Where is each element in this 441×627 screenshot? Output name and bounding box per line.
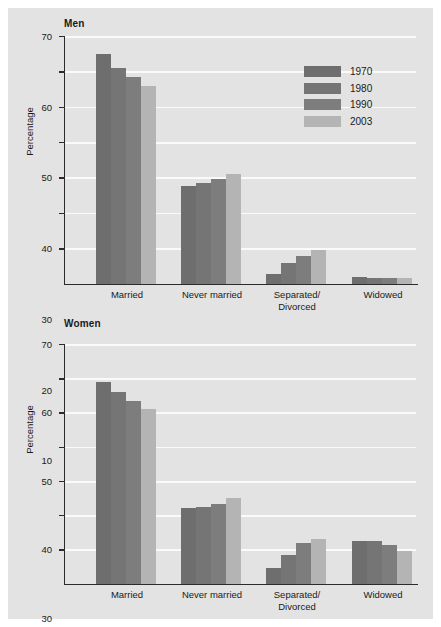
y-axis-tick-label: 70	[41, 339, 52, 350]
bar	[281, 263, 296, 284]
legend-swatch-icon	[304, 66, 341, 77]
y-axis-label-men: Percentage	[24, 87, 35, 177]
figure-panel: Men Percentage 10203040506070 1970198019…	[8, 8, 433, 619]
chart-women: Women Percentage 10203040506070 MarriedN…	[8, 316, 433, 616]
bar	[141, 86, 156, 284]
y-axis-tick: 10	[59, 549, 64, 550]
bar	[211, 504, 226, 584]
y-axis-tick-label: 60	[41, 407, 52, 418]
bar-group	[352, 343, 414, 584]
y-axis-tick-label: 70	[41, 31, 52, 42]
bar	[196, 183, 211, 284]
legend-item: 1970	[304, 64, 408, 79]
bar	[266, 568, 281, 583]
x-axis-category-label: Separated/ Divorced	[274, 289, 320, 312]
bar	[311, 539, 326, 583]
bar	[126, 401, 141, 584]
bar	[382, 278, 397, 283]
legend-label: 1980	[350, 83, 372, 94]
y-axis-tick: 40	[59, 142, 64, 143]
bar	[281, 555, 296, 584]
y-axis-tick: 50	[59, 107, 64, 108]
bar	[96, 382, 111, 584]
bar	[141, 409, 156, 584]
bar	[111, 392, 126, 584]
legend-swatch-icon	[304, 83, 341, 94]
bar	[311, 250, 326, 283]
bar	[226, 174, 241, 284]
legend-label: 1970	[350, 66, 372, 77]
legend-item: 1980	[304, 81, 408, 96]
y-axis-tick: 30	[59, 177, 64, 178]
legend-item: 2003	[304, 114, 408, 129]
y-axis-tick-label: 40	[41, 544, 52, 555]
legend-swatch-icon	[304, 116, 341, 127]
bar	[181, 186, 196, 284]
x-axis-line-women	[64, 584, 418, 585]
bar	[382, 545, 397, 584]
legend: 1970198019902003	[304, 64, 408, 130]
y-axis-tick: 20	[59, 213, 64, 214]
bar	[296, 543, 311, 584]
y-axis-tick-label: 40	[41, 243, 52, 254]
y-axis-label-women: Percentage	[24, 385, 35, 475]
y-axis-tick: 60	[59, 71, 64, 72]
bar	[367, 278, 382, 283]
y-axis-tick: 60	[59, 378, 64, 379]
chart-men: Men Percentage 10203040506070 1970198019…	[8, 16, 433, 316]
bar-group	[266, 343, 328, 584]
x-axis-line-men	[64, 284, 418, 285]
bar	[96, 54, 111, 284]
y-axis-tick: 50	[59, 412, 64, 413]
bar	[111, 68, 126, 284]
bar-group	[181, 343, 243, 584]
x-axis-category-label: Never married	[182, 289, 242, 301]
bar	[352, 277, 367, 284]
y-axis-tick-label: 50	[41, 172, 52, 183]
chart-title-men: Men	[64, 18, 85, 29]
chart-title-women: Women	[64, 318, 101, 329]
bar-group	[96, 343, 158, 584]
bar	[367, 541, 382, 584]
y-axis-tick: 70	[59, 36, 64, 37]
bar	[397, 551, 412, 584]
legend-swatch-icon	[304, 99, 341, 110]
bar	[352, 541, 367, 584]
legend-item: 1990	[304, 97, 408, 112]
bar	[196, 507, 211, 584]
x-axis-category-label: Separated/ Divorced	[274, 589, 320, 612]
y-axis-tick: 40	[59, 447, 64, 448]
bar-group	[96, 35, 158, 284]
bar	[211, 179, 226, 283]
bar	[226, 498, 241, 584]
bar	[181, 508, 196, 584]
bar	[397, 278, 412, 283]
bar	[126, 77, 141, 284]
y-axis-tick: 70	[59, 344, 64, 345]
x-axis-category-label: Widowed	[363, 589, 402, 601]
y-axis-tick-label: 50	[41, 475, 52, 486]
y-axis-tick-label: 60	[41, 101, 52, 112]
bar-group	[181, 35, 243, 284]
x-axis-category-label: Married	[111, 589, 143, 601]
plot-area-women: 10203040506070	[64, 344, 416, 585]
x-axis-category-label: Married	[111, 289, 143, 301]
x-axis-category-label: Widowed	[363, 289, 402, 301]
bar	[296, 256, 311, 284]
y-axis-tick: 30	[59, 481, 64, 482]
y-axis-tick: 20	[59, 515, 64, 516]
y-axis-tick: 10	[59, 248, 64, 249]
y-axis-tick-label: 30	[41, 612, 52, 623]
legend-label: 1990	[350, 99, 372, 110]
legend-label: 2003	[350, 116, 372, 127]
bar	[266, 274, 281, 284]
x-axis-category-label: Never married	[182, 589, 242, 601]
